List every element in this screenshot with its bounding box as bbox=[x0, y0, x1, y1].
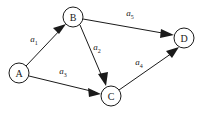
edge-a2-arrowhead bbox=[98, 72, 108, 86]
edge-a4 bbox=[119, 47, 179, 90]
edge-label-a1-subscript: 1 bbox=[35, 40, 38, 46]
edge-a1-arrowhead bbox=[53, 24, 66, 34]
edge-label-a3: a3 bbox=[59, 66, 67, 78]
edge-a2 bbox=[80, 25, 108, 86]
edge-a5 bbox=[83, 19, 174, 38]
edge-label-a4: a4 bbox=[135, 57, 143, 69]
edge-label-a2-subscript: 2 bbox=[98, 48, 101, 54]
node-D: D bbox=[174, 28, 194, 48]
node-D-label: D bbox=[180, 33, 187, 44]
edge-a5-arrowhead bbox=[160, 29, 174, 38]
node-C-label: C bbox=[108, 91, 115, 102]
edge-label-a5-subscript: 5 bbox=[131, 14, 134, 20]
edge-label-a3-subscript: 3 bbox=[64, 72, 67, 78]
edge-a3 bbox=[29, 76, 101, 97]
node-A-label: A bbox=[15, 68, 23, 79]
node-B: B bbox=[63, 7, 83, 27]
directed-graph-diagram: a1 a2 a3 a4 a5 A B C D bbox=[0, 0, 200, 114]
edge-label-a5: a5 bbox=[126, 8, 134, 20]
edge-label-a1: a1 bbox=[30, 34, 38, 46]
node-B-label: B bbox=[70, 12, 77, 23]
node-C: C bbox=[101, 86, 121, 106]
edge-a1 bbox=[26, 24, 66, 66]
edge-a5-line bbox=[83, 19, 168, 34]
edge-a4-line bbox=[119, 51, 175, 90]
node-A: A bbox=[9, 63, 29, 83]
edge-a3-arrowhead bbox=[88, 88, 101, 97]
edge-label-a2: a2 bbox=[93, 42, 101, 54]
edge-a3-line bbox=[29, 76, 95, 92]
edge-label-a4-subscript: 4 bbox=[140, 63, 143, 69]
